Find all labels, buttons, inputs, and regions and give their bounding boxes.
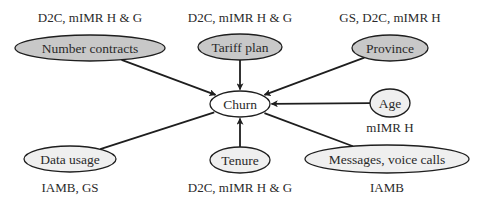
node-data-usage[interactable]: Data usage (24, 146, 116, 172)
method-label-number-contracts: D2C, mIMR H & G (38, 10, 142, 25)
method-label-age: mIMR H (366, 120, 413, 135)
node-label: Number contracts (42, 41, 138, 56)
node-label: Tariff plan (212, 40, 269, 55)
node-label: Age (379, 96, 402, 111)
method-label-province: GS, D2C, mIMR H (339, 10, 441, 25)
method-label-tariff-plan: D2C, mIMR H & G (188, 10, 292, 25)
node-messages-voice-calls[interactable]: Messages, voice calls (305, 145, 469, 173)
node-tariff-plan[interactable]: Tariff plan (198, 34, 282, 60)
node-label: Province (366, 41, 414, 56)
method-label-data-usage: IAMB, GS (41, 180, 98, 195)
node-number-contracts[interactable]: Number contracts (15, 35, 165, 61)
method-label-tenure: D2C, mIMR H & G (188, 180, 292, 195)
node-churn[interactable]: Churn (210, 91, 270, 117)
node-label: Data usage (40, 152, 100, 167)
method-label-messages-voice-calls: IAMB (370, 180, 404, 195)
node-label: Churn (223, 97, 257, 112)
edge-messages-voice-calls-to-churn (264, 113, 353, 146)
node-province[interactable]: Province (352, 35, 428, 61)
node-label: Messages, voice calls (329, 152, 446, 167)
edge-age-to-churn (271, 103, 370, 104)
node-age[interactable]: Age (370, 89, 410, 117)
edge-number-contracts-to-churn (122, 60, 216, 95)
edge-data-usage-to-churn (100, 112, 214, 149)
nodes-layer: Number contractsTariff planProvinceAgeDa… (15, 34, 469, 173)
causal-diagram: Number contractsTariff planProvinceAgeDa… (0, 0, 490, 206)
edge-province-to-churn (264, 58, 364, 95)
node-tenure[interactable]: Tenure (210, 147, 270, 173)
node-label: Tenure (221, 153, 258, 168)
